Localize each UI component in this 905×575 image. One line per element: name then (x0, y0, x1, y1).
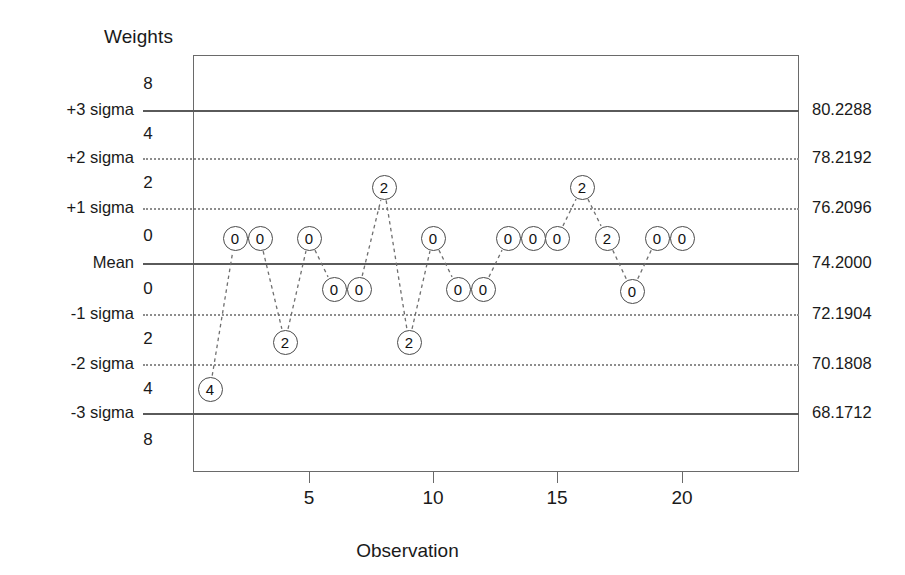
x-tick-label-10: 10 (403, 487, 463, 509)
control-chart: Weights +3 sigma80.2288+2 sigma78.2192+1… (0, 0, 905, 575)
x-tick-mark-5 (309, 472, 310, 483)
x-tick-mark-20 (682, 472, 683, 483)
x-axis-ticks: 5101520 (0, 0, 905, 575)
x-tick-label-20: 20 (652, 487, 712, 509)
x-tick-label-5: 5 (279, 487, 339, 509)
x-axis-title: Observation (0, 540, 905, 562)
x-tick-mark-10 (433, 472, 434, 483)
x-tick-mark-15 (557, 472, 558, 483)
x-tick-label-15: 15 (527, 487, 587, 509)
